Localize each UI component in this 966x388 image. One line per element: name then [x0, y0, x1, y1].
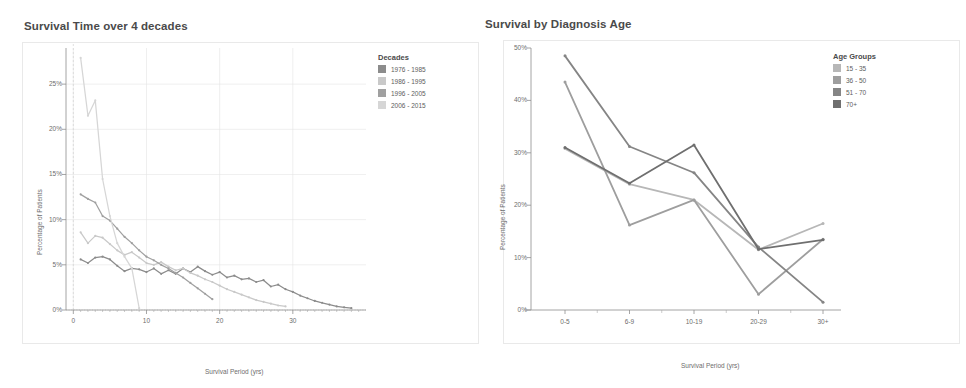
- left-data-point: [233, 275, 235, 277]
- left-data-point: [233, 291, 235, 293]
- left-data-point: [138, 249, 140, 251]
- legend-swatch-icon: [833, 88, 841, 96]
- left-data-point: [182, 267, 184, 269]
- right-y-tick-label: 40%: [499, 96, 527, 103]
- right-data-point: [628, 145, 631, 148]
- left-data-point: [160, 264, 162, 266]
- left-data-point: [109, 243, 111, 245]
- left-data-point: [211, 281, 213, 283]
- left-data-point: [138, 307, 140, 309]
- left-data-point: [101, 256, 103, 258]
- right-legend-label: 36 - 50: [846, 77, 866, 84]
- left-data-point: [145, 271, 147, 273]
- panel-survival-by-diagnosis-age: Survival by Diagnosis Age Percentage of …: [483, 0, 966, 388]
- left-data-point: [80, 231, 82, 233]
- left-data-point: [153, 267, 155, 269]
- legend-swatch-icon: [833, 100, 841, 108]
- left-data-point: [262, 279, 264, 281]
- left-data-point: [123, 236, 125, 238]
- left-data-point: [87, 262, 89, 264]
- left-data-point: [189, 282, 191, 284]
- left-legend-label: 2006 - 2015: [391, 102, 426, 109]
- left-data-point: [226, 276, 228, 278]
- left-data-point: [109, 258, 111, 260]
- left-data-point: [197, 266, 199, 268]
- left-legend-item[interactable]: 1976 - 1985: [378, 65, 426, 73]
- left-data-point: [94, 99, 96, 101]
- left-data-point: [101, 178, 103, 180]
- right-data-point: [822, 222, 825, 225]
- right-x-tick-label: 30+: [808, 318, 838, 325]
- left-data-point: [131, 242, 133, 244]
- left-data-point: [248, 277, 250, 279]
- legend-swatch-icon: [378, 89, 386, 97]
- right-data-point: [822, 301, 825, 304]
- left-data-point: [175, 269, 177, 271]
- left-legend-label: 1996 - 2005: [391, 90, 426, 97]
- left-data-point: [226, 288, 228, 290]
- right-data-point: [564, 146, 567, 149]
- left-data-point: [328, 303, 330, 305]
- left-data-point: [123, 256, 125, 258]
- left-x-tick-label: 10: [134, 317, 158, 324]
- left-data-point: [80, 57, 82, 59]
- left-y-tick-label: 0%: [36, 306, 62, 313]
- left-data-point: [87, 115, 89, 117]
- right-y-tick-label: 0%: [499, 306, 527, 313]
- right-data-point: [693, 143, 696, 146]
- left-data-point: [94, 235, 96, 237]
- left-data-point: [248, 296, 250, 298]
- right-legend-label: 70+: [846, 101, 857, 108]
- left-x-tick-label: 20: [208, 317, 232, 324]
- left-legend-item[interactable]: 1996 - 2005: [378, 89, 426, 97]
- charts-board: Survival Time over 4 decades Percentage …: [0, 0, 966, 388]
- right-y-axis-title: Percentage of Patients: [499, 184, 506, 250]
- left-series-line: [81, 257, 352, 308]
- right-x-tick-label: 6-9: [615, 318, 645, 325]
- left-data-point: [87, 198, 89, 200]
- left-data-point: [138, 268, 140, 270]
- right-x-axis-title: Survival Period (yrs): [681, 362, 740, 369]
- right-legend-item[interactable]: 70+: [833, 100, 876, 108]
- left-data-point: [336, 305, 338, 307]
- left-data-point: [160, 261, 162, 263]
- right-data-point: [628, 224, 631, 227]
- right-x-tick-label: 10-19: [679, 318, 709, 325]
- left-data-point: [204, 270, 206, 272]
- left-data-point: [277, 284, 279, 286]
- left-legend-item[interactable]: 1986 - 1995: [378, 77, 426, 85]
- right-data-point: [822, 238, 825, 241]
- legend-swatch-icon: [378, 101, 386, 109]
- left-data-point: [109, 215, 111, 217]
- left-data-point: [145, 262, 147, 264]
- left-data-point: [255, 299, 257, 301]
- left-data-point: [153, 264, 155, 266]
- left-legend-item[interactable]: 2006 - 2015: [378, 101, 426, 109]
- left-data-point: [350, 307, 352, 309]
- left-data-point: [131, 251, 133, 253]
- right-data-point: [693, 198, 696, 201]
- panel-survival-time-over-4-decades: Survival Time over 4 decades Percentage …: [0, 0, 483, 388]
- left-chart-title: Survival Time over 4 decades: [24, 20, 188, 32]
- left-y-tick-label: 20%: [36, 125, 62, 132]
- right-y-tick-label: 30%: [499, 149, 527, 156]
- left-data-point: [277, 304, 279, 306]
- right-data-point: [628, 182, 631, 185]
- left-legend: Decades 1976 - 19851986 - 19951996 - 200…: [378, 53, 426, 113]
- left-y-tick-label: 10%: [36, 216, 62, 223]
- right-data-point: [757, 293, 760, 296]
- right-series-line: [565, 82, 823, 294]
- left-data-point: [101, 215, 103, 217]
- right-x-tick-label: 20-29: [744, 318, 774, 325]
- right-legend-item[interactable]: 36 - 50: [833, 76, 876, 84]
- legend-swatch-icon: [833, 76, 841, 84]
- left-data-point: [241, 278, 243, 280]
- left-data-point: [116, 265, 118, 267]
- left-data-point: [314, 300, 316, 302]
- left-data-point: [123, 270, 125, 272]
- right-legend-item[interactable]: 51 - 70: [833, 88, 876, 96]
- left-x-tick-label: 0: [61, 317, 85, 324]
- right-legend-title: Age Groups: [833, 52, 876, 61]
- right-legend-item[interactable]: 15 - 35: [833, 64, 876, 72]
- left-data-point: [204, 293, 206, 295]
